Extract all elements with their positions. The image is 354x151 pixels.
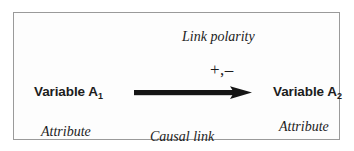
attribute-right-label: Attribute <box>279 120 329 134</box>
diagram-frame: Link polarity +,– Variable A1 Variable A… <box>13 12 340 140</box>
node-variable-a2-text: Variable A <box>273 84 337 99</box>
polarity-sign-label: +,– <box>210 61 234 78</box>
link-polarity-label: Link polarity <box>182 30 255 44</box>
node-variable-a2: Variable A2 <box>273 85 342 99</box>
causal-link-label: Causal link <box>150 130 214 144</box>
attribute-left-label: Attribute <box>41 125 91 139</box>
node-variable-a2-subscript: 2 <box>337 91 342 101</box>
node-variable-a1-subscript: 1 <box>98 91 103 101</box>
node-variable-a1-text: Variable A <box>34 84 98 99</box>
node-variable-a1: Variable A1 <box>34 85 103 99</box>
causal-link-arrow-icon <box>134 83 256 103</box>
